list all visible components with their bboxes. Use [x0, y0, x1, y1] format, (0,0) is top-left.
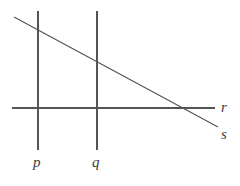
label-line-r: r [221, 100, 227, 115]
line-s [14, 17, 218, 127]
label-line-q: q [92, 155, 100, 170]
label-line-s: s [221, 127, 227, 142]
label-line-p: p [33, 155, 41, 170]
geometry-figure: p q r s [0, 0, 240, 186]
